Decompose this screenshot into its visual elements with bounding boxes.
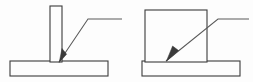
left-tee-joint-figure: [10, 6, 122, 76]
left-base-plate: [10, 61, 108, 76]
left-vertical-plate: [50, 6, 62, 62]
right-base-plate: [142, 61, 240, 76]
right-tee-joint-figure: [142, 10, 249, 76]
weld-joint-diagram: [0, 0, 253, 82]
left-leader-line: [59, 19, 122, 62]
diagram-canvas: [0, 0, 253, 82]
